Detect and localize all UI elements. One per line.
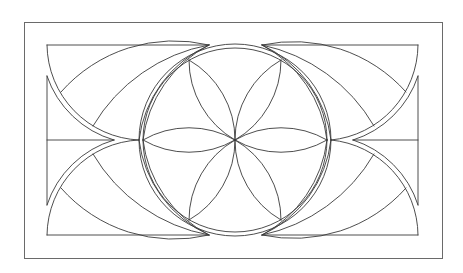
- corner-fan-bottom-right: [262, 140, 418, 238]
- tracery-drawing: Rosette window tracery pattern: [0, 0, 463, 273]
- corner-fan-bottom-left: [47, 140, 209, 239]
- inner-frame: [47, 45, 418, 235]
- corner-fan-top-right: [262, 42, 418, 140]
- corner-fan-top-left: [47, 41, 209, 140]
- six-petal-rosette: [143, 60, 327, 220]
